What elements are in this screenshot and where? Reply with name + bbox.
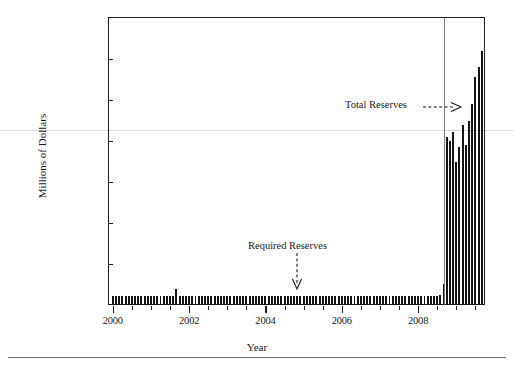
- annotation-total-reserves: Total Reserves: [345, 99, 407, 110]
- bar: [144, 296, 146, 305]
- bar: [424, 296, 426, 305]
- bar: [201, 296, 203, 305]
- bar: [293, 296, 295, 305]
- bar: [258, 296, 260, 305]
- bar: [223, 296, 225, 305]
- x-tick-label: 2006: [332, 315, 352, 326]
- x-tick-mark: [342, 306, 343, 313]
- bar: [319, 296, 321, 305]
- x-tick-minor: [285, 306, 286, 310]
- bar: [366, 296, 368, 305]
- bar: [290, 296, 292, 305]
- bar: [137, 296, 139, 305]
- bar: [427, 296, 429, 305]
- bar: [261, 296, 263, 305]
- bar: [404, 296, 406, 305]
- required-reserves-arrow-icon: [290, 253, 304, 293]
- bar: [389, 296, 391, 305]
- bar: [468, 121, 470, 306]
- bar: [462, 125, 464, 305]
- bar: [236, 296, 238, 305]
- bar: [436, 296, 438, 305]
- bar: [182, 296, 184, 305]
- x-tick-minor: [437, 306, 438, 310]
- bar: [179, 296, 181, 305]
- bar: [392, 296, 394, 305]
- bar: [334, 296, 336, 305]
- bar: [131, 296, 133, 305]
- bar: [195, 296, 197, 305]
- x-tick-label: 2004: [255, 315, 275, 326]
- bar: [264, 296, 266, 305]
- total-reserves-arrow-icon: [423, 100, 465, 114]
- x-tick-mark: [418, 306, 419, 313]
- bar: [220, 296, 222, 305]
- bar: [274, 296, 276, 305]
- bar: [207, 296, 209, 305]
- bar: [347, 296, 349, 305]
- bar: [150, 296, 152, 305]
- bar: [417, 296, 419, 305]
- x-tick-mark: [113, 306, 114, 313]
- bar: [350, 296, 352, 305]
- bar: [287, 296, 289, 305]
- bar: [166, 296, 168, 305]
- y-axis-label: Millions of Dollars: [36, 86, 48, 226]
- x-tick-minor: [227, 306, 228, 310]
- x-tick-minor: [380, 306, 381, 310]
- bar: [252, 296, 254, 305]
- bar: [439, 295, 441, 305]
- bar: [185, 296, 187, 305]
- bar: [217, 296, 219, 305]
- bar: [140, 296, 142, 305]
- bar: [328, 296, 330, 305]
- bar: [373, 296, 375, 305]
- bar: [341, 296, 343, 305]
- bar: [147, 296, 149, 305]
- bar: [312, 296, 314, 305]
- bar: [284, 296, 286, 305]
- bar: [398, 296, 400, 305]
- bar: [331, 296, 333, 305]
- bar: [226, 296, 228, 305]
- bar: [163, 296, 165, 305]
- bar: [420, 296, 422, 305]
- bar: [214, 296, 216, 305]
- bar: [369, 296, 371, 305]
- bar: [376, 296, 378, 305]
- bar: [188, 296, 190, 305]
- bar: [338, 296, 340, 305]
- bar: [271, 296, 273, 305]
- bar: [455, 162, 457, 306]
- bar: [458, 147, 460, 305]
- bar: [128, 296, 130, 305]
- x-tick-minor: [246, 306, 247, 310]
- bar: [191, 296, 193, 305]
- bar: [249, 296, 251, 305]
- bar: [198, 296, 200, 305]
- bar: [433, 296, 435, 305]
- bar: [204, 296, 206, 305]
- x-tick-minor: [151, 306, 152, 310]
- bar: [296, 296, 298, 305]
- bar: [112, 296, 114, 305]
- bar: [360, 296, 362, 305]
- x-tick-minor: [170, 306, 171, 310]
- bar: [379, 296, 381, 305]
- bar: [229, 296, 231, 305]
- bar: [385, 296, 387, 305]
- bar: [478, 67, 480, 305]
- bar: [156, 296, 158, 305]
- bar: [233, 296, 235, 305]
- bar: [306, 296, 308, 305]
- x-tick-label: 2002: [179, 315, 199, 326]
- x-tick-minor: [304, 306, 305, 310]
- bar: [474, 77, 476, 305]
- bar: [245, 296, 247, 305]
- x-tick-minor: [361, 306, 362, 310]
- bar: [239, 296, 241, 305]
- bar: [481, 51, 483, 305]
- bar: [153, 296, 155, 305]
- bar: [268, 296, 270, 305]
- bar: [309, 296, 311, 305]
